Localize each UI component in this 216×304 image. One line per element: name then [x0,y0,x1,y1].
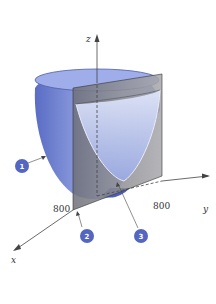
svg-text:2: 2 [85,233,90,241]
callout-2: 2 [76,211,94,243]
svg-text:1: 1 [20,163,25,171]
y-axis-label: y [202,204,209,214]
x-arrow-icon [13,244,21,251]
paraboloid-figure: z y x 800 800 1 2 3 [0,0,216,304]
vertical-plane [73,74,162,210]
z-axis-label: z [85,34,91,44]
y-arrow-icon [202,174,210,179]
z-arrow-icon [95,34,100,42]
y-tick-label: 800 [153,201,170,211]
svg-text:3: 3 [139,233,144,241]
callout-1: 1 [15,156,46,173]
x-tick-label: 800 [53,204,70,214]
x-axis-label: x [11,255,16,265]
